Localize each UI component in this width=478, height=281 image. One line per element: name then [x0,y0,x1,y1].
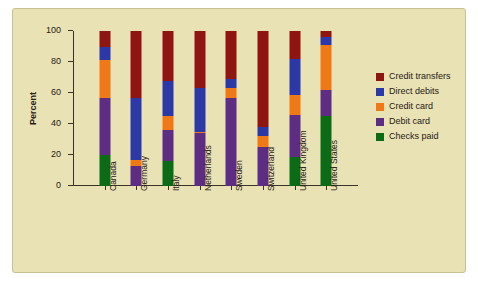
legend-label: Checks paid [389,132,439,141]
bar-segment-credit-transfers[interactable] [131,31,142,98]
bar-segment-credit-transfers[interactable] [258,31,269,127]
legend-swatch-icon [376,133,384,141]
x-tick [295,186,296,190]
bar-segment-direct-debits[interactable] [321,37,332,45]
bar-segment-credit-transfers[interactable] [226,31,237,79]
y-tick: 100 [68,30,73,31]
x-tick [263,186,264,190]
y-axis-line [73,31,74,186]
chart-legend: Credit transfersDirect debitsCredit card… [376,71,464,146]
bar-segment-debit-card[interactable] [321,90,332,116]
bar-segment-credit-transfers[interactable] [194,31,205,88]
bar-segment-credit-card[interactable] [163,116,174,130]
y-tick: 60 [68,92,73,93]
x-tick [231,186,232,190]
legend-label: Credit card [389,102,433,111]
y-tick-label: 60 [51,88,61,97]
legend-label: Direct debits [389,87,439,96]
legend-item-direct-debits[interactable]: Direct debits [376,86,464,97]
bar-segment-credit-card[interactable] [258,136,269,147]
bar-segment-credit-transfers[interactable] [99,31,110,47]
bar-segment-debit-card[interactable] [163,130,174,161]
bar-segment-direct-debits[interactable] [258,127,269,136]
legend-label: Credit transfers [389,72,451,81]
chart-figure: Percent 020406080100 CanadaGermanyItalyN… [12,8,466,273]
bar-segment-direct-debits[interactable] [163,81,174,117]
x-tick [136,186,137,190]
x-tick [105,186,106,190]
y-tick-label: 20 [51,150,61,159]
legend-label: Debit card [389,117,430,126]
bar-segment-credit-card[interactable] [289,95,300,115]
bar-segment-credit-transfers[interactable] [289,31,300,59]
bar-italy[interactable] [163,31,174,186]
legend-swatch-icon [376,103,384,111]
bar-segment-direct-debits[interactable] [99,47,110,61]
y-axis-label: Percent [27,31,39,186]
bar-segment-debit-card[interactable] [99,98,110,155]
bar-segment-direct-debits[interactable] [289,59,300,95]
x-axis-label-switzerland: Switzerland [267,147,276,191]
plot-area: 020406080100 CanadaGermanyItalyNetherlan… [73,31,358,186]
legend-item-checks-paid[interactable]: Checks paid [376,131,464,142]
bar-segment-credit-card[interactable] [321,45,332,90]
y-tick-label: 0 [56,181,61,190]
bar-segment-direct-debits[interactable] [131,98,142,160]
x-tick [326,186,327,190]
x-axis-label-sweden: Sweden [235,160,244,191]
bar-segment-credit-card[interactable] [226,88,237,97]
x-tick [168,186,169,190]
legend-swatch-icon [376,73,384,81]
legend-swatch-icon [376,88,384,96]
x-axis-label-italy: Italy [172,175,181,191]
y-tick-label: 40 [51,119,61,128]
y-tick: 0 [68,185,73,186]
x-tick [200,186,201,190]
x-axis-label-netherlands: Netherlands [204,145,213,191]
legend-item-credit-transfers[interactable]: Credit transfers [376,71,464,82]
y-tick: 40 [68,123,73,124]
y-tick-label: 80 [51,57,61,66]
x-axis-label-united-kingdom: United Kingdom [299,131,308,191]
x-axis-label-united-states: United States [330,140,339,191]
y-tick: 80 [68,61,73,62]
legend-item-credit-card[interactable]: Credit card [376,101,464,112]
bar-segment-credit-card[interactable] [99,60,110,97]
bar-segment-direct-debits[interactable] [226,79,237,88]
bar-segment-direct-debits[interactable] [194,88,205,131]
y-tick-label: 100 [46,26,61,35]
y-tick: 20 [68,154,73,155]
legend-swatch-icon [376,118,384,126]
bar-segment-credit-transfers[interactable] [163,31,174,81]
legend-item-debit-card[interactable]: Debit card [376,116,464,127]
x-axis-label-germany: Germany [140,156,149,191]
x-axis-label-canada: Canada [109,161,118,191]
